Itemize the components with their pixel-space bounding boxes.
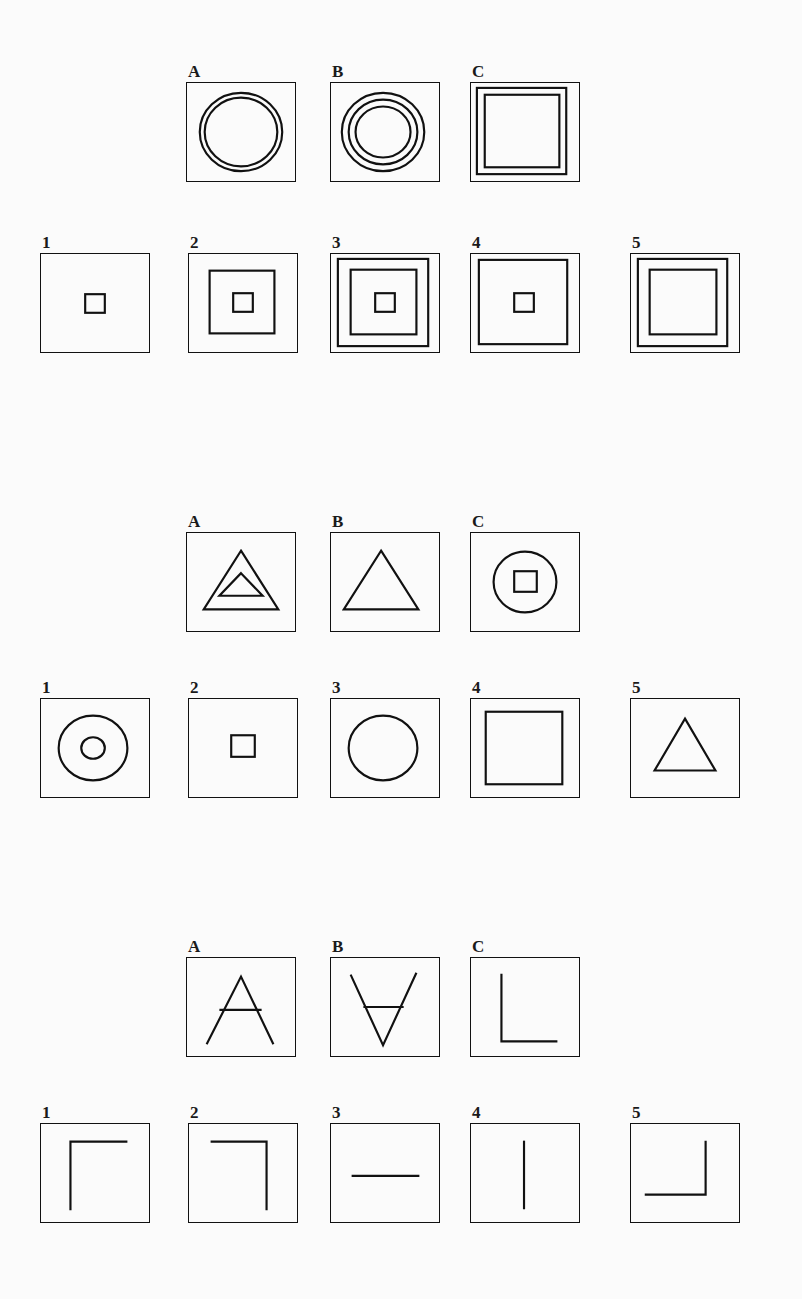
problem-3-stem-c[interactable]: C [470, 937, 582, 1057]
two-concentric-circles-icon [187, 83, 295, 181]
figure-frame [186, 82, 296, 182]
problem-1-option-3[interactable]: 3 [330, 233, 442, 353]
option-label: 3 [330, 233, 442, 253]
frame-mid-square-tiny-square-icon [189, 254, 297, 352]
horizontal-line-icon [331, 1124, 439, 1222]
stem-label: B [330, 62, 442, 82]
option-label: 4 [470, 233, 582, 253]
corner-bottom-right-icon [631, 1124, 739, 1222]
figure-frame [40, 253, 150, 353]
problem-2-option-4[interactable]: 4 [470, 678, 582, 798]
problem-3-option-3[interactable]: 3 [330, 1103, 442, 1223]
option-label: 5 [630, 678, 742, 698]
figure-frame [470, 532, 580, 632]
option-label: 1 [40, 233, 152, 253]
problem-1-option-5[interactable]: 5 [630, 233, 742, 353]
letter-a-inverted-icon [331, 958, 439, 1056]
problem-2-option-5[interactable]: 5 [630, 678, 742, 798]
problem-1-option-4[interactable]: 4 [470, 233, 582, 353]
figure-frame [330, 1123, 440, 1223]
problem-2-option-2[interactable]: 2 [188, 678, 300, 798]
figure-frame [40, 1123, 150, 1223]
option-label: 3 [330, 1103, 442, 1123]
problem-3-stem-b[interactable]: B [330, 937, 442, 1057]
problem-1-stem-a[interactable]: A [186, 62, 298, 182]
problem-1-stem-b[interactable]: B [330, 62, 442, 182]
problem-2-stem-c[interactable]: C [470, 512, 582, 632]
small-square-icon [189, 699, 297, 797]
problem-3-stem-a[interactable]: A [186, 937, 298, 1057]
figure-frame [188, 253, 298, 353]
problem-3-option-row: 1 2 3 [0, 1103, 802, 1243]
option-label: 2 [188, 1103, 300, 1123]
problem-3-option-4[interactable]: 4 [470, 1103, 582, 1223]
figure-frame [330, 532, 440, 632]
figure-frame [630, 698, 740, 798]
figure-frame [330, 957, 440, 1057]
figure-frame [470, 253, 580, 353]
problem-2: A B C [0, 420, 802, 840]
figure-frame [188, 1123, 298, 1223]
figure-frame [470, 698, 580, 798]
circle-with-small-circle-icon [41, 699, 149, 797]
problem-1-option-1[interactable]: 1 [40, 233, 152, 353]
single-circle-icon [331, 699, 439, 797]
option-label: 5 [630, 233, 742, 253]
single-triangle-icon [331, 533, 439, 631]
stem-label: C [470, 62, 582, 82]
corner-top-left-icon [41, 1124, 149, 1222]
stem-label: B [330, 937, 442, 957]
option-label: 2 [188, 678, 300, 698]
test-sheet: A B C [0, 0, 802, 1299]
letter-l-icon [471, 958, 579, 1056]
figure-frame [330, 82, 440, 182]
stem-label: B [330, 512, 442, 532]
problem-3-option-1[interactable]: 1 [40, 1103, 152, 1223]
circle-with-square-icon [471, 533, 579, 631]
vertical-line-icon [471, 1124, 579, 1222]
problem-2-stem-row: A B C [0, 512, 802, 652]
three-concentric-circles-icon [331, 83, 439, 181]
problem-2-option-row: 1 2 3 [0, 678, 802, 818]
two-nested-triangles-icon [187, 533, 295, 631]
figure-frame [330, 698, 440, 798]
frame-with-tiny-square-icon [41, 254, 149, 352]
option-label: 1 [40, 1103, 152, 1123]
figure-frame [630, 1123, 740, 1223]
single-triangle-icon [631, 699, 739, 797]
three-nested-squares-icon [471, 83, 579, 181]
problem-1-stem-c[interactable]: C [470, 62, 582, 182]
figure-frame [188, 698, 298, 798]
stem-label: A [186, 937, 298, 957]
stem-label: C [470, 937, 582, 957]
frame-large-square-tiny-square-icon [471, 254, 579, 352]
problem-3-option-2[interactable]: 2 [188, 1103, 300, 1223]
frame-two-squares-tiny-square-icon [331, 254, 439, 352]
problem-2-stem-a[interactable]: A [186, 512, 298, 632]
stem-label: C [470, 512, 582, 532]
figure-frame [630, 253, 740, 353]
problem-3-stem-row: A B C [0, 937, 802, 1077]
problem-2-option-1[interactable]: 1 [40, 678, 152, 798]
stem-label: A [186, 512, 298, 532]
stem-label: A [186, 62, 298, 82]
problem-3: A B C [0, 845, 802, 1265]
letter-a-icon [187, 958, 295, 1056]
problem-2-stem-b[interactable]: B [330, 512, 442, 632]
problem-1: A B C [0, 0, 802, 400]
problem-1-option-row: 1 2 3 [0, 233, 802, 373]
figure-frame [40, 698, 150, 798]
option-label: 4 [470, 1103, 582, 1123]
figure-frame [470, 82, 580, 182]
figure-frame [470, 957, 580, 1057]
problem-1-stem-row: A B C [0, 62, 802, 202]
figure-frame [330, 253, 440, 353]
problem-1-option-2[interactable]: 2 [188, 233, 300, 353]
three-nested-squares-no-centre-icon [631, 254, 739, 352]
problem-2-option-3[interactable]: 3 [330, 678, 442, 798]
option-label: 4 [470, 678, 582, 698]
problem-3-option-5[interactable]: 5 [630, 1103, 742, 1223]
figure-frame [186, 532, 296, 632]
figure-frame [470, 1123, 580, 1223]
corner-top-right-icon [189, 1124, 297, 1222]
